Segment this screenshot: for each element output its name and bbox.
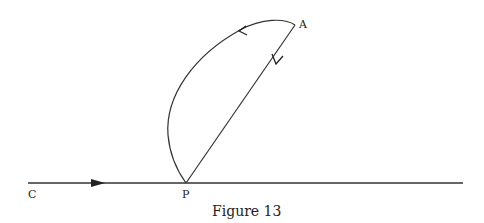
label-c: C [28, 188, 36, 201]
label-p: P [182, 188, 190, 201]
label-a: A [298, 18, 308, 31]
arrow-right-icon [91, 179, 105, 187]
segment-ap [186, 25, 295, 183]
figure-caption: Figure 13 [212, 203, 281, 219]
arc-ap [168, 20, 295, 183]
figure-13-diagram: A C P Figure 13 [0, 0, 484, 223]
